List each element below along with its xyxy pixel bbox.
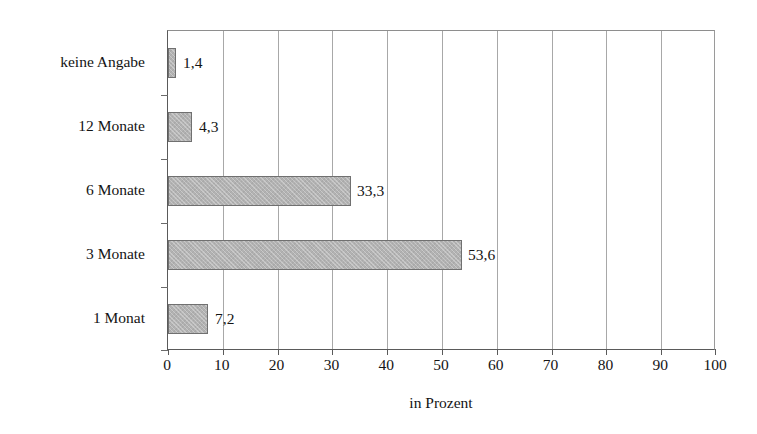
category-label-3-monate: 3 Monate [86,222,145,286]
xlabel-70: 70 [543,356,559,374]
bar-band-12-monate: 4,3 [168,95,714,159]
xlabel-90: 90 [652,356,668,374]
xlabel-60: 60 [488,356,504,374]
category-label-1-monat: 1 Monat [93,286,145,350]
ytick-sep-5 [161,350,168,351]
bar-value-keine-angabe: 1,4 [183,48,202,78]
bar-band-1-monat: 7,2 [168,287,714,351]
category-label-12-monate: 12 Monate [78,94,145,158]
bar-3-monate[interactable] [168,240,462,270]
bar-value-1-monat: 7,2 [215,304,234,334]
xlabel-100: 100 [703,356,726,374]
value-axis-labels: 0 10 20 30 40 50 60 70 80 90 100 [167,356,715,380]
ytick-sep-3 [161,223,168,224]
category-label-keine-angabe: keine Angabe [60,30,145,94]
xtick-100 [715,349,716,355]
ytick-sep-4 [161,287,168,288]
bar-1-monat[interactable] [168,304,208,334]
ytick-sep-2 [161,159,168,160]
category-axis-labels: keine Angabe 12 Monate 6 Monate 3 Monate… [0,30,155,350]
category-label-6-monate: 6 Monate [86,158,145,222]
xlabel-80: 80 [598,356,614,374]
xlabel-10: 10 [214,356,230,374]
bar-band-6-monate: 33,3 [168,159,714,223]
ytick-sep-1 [161,95,168,96]
bar-6-monate[interactable] [168,176,351,206]
xlabel-30: 30 [324,356,340,374]
bar-value-6-monate: 33,3 [357,176,384,206]
xlabel-0: 0 [163,356,171,374]
bar-value-3-monate: 53,6 [468,240,495,270]
bar-keine-angabe[interactable] [168,48,176,78]
xlabel-20: 20 [269,356,285,374]
bar-band-keine-angabe: 1,4 [168,31,714,95]
bar-12-monate[interactable] [168,112,192,142]
plot-area: 1,4 4,3 33,3 53,6 7,2 [167,30,715,350]
xlabel-50: 50 [433,356,449,374]
bar-chart: keine Angabe 12 Monate 6 Monate 3 Monate… [0,0,757,434]
x-axis-title: in Prozent [167,394,715,412]
bar-value-12-monate: 4,3 [199,112,218,142]
xlabel-40: 40 [378,356,394,374]
bar-band-3-monate: 53,6 [168,223,714,287]
